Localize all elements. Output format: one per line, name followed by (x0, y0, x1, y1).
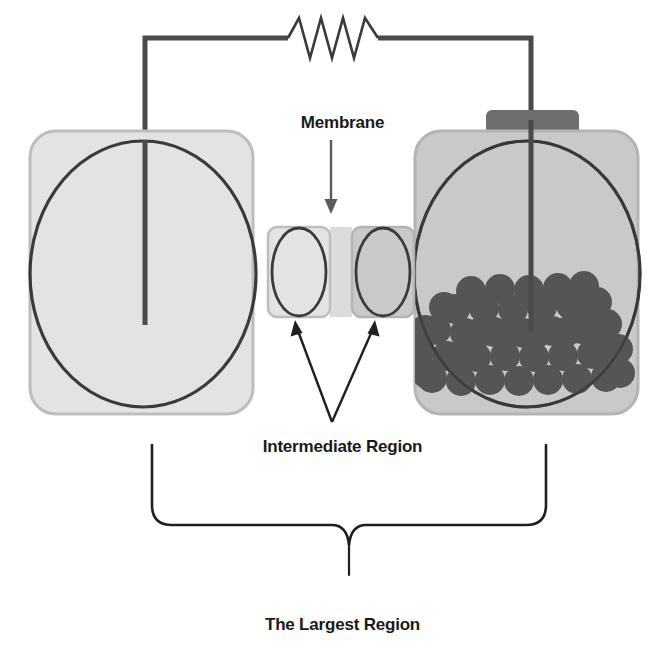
intermediate-chamber-right (352, 227, 414, 317)
particle (464, 318, 494, 348)
right-reservoir (398, 110, 640, 414)
intermediate-chamber-left (268, 227, 330, 317)
membrane-label: Membrane (0, 113, 669, 133)
particle (573, 292, 603, 322)
intermediate-region-label: Intermediate Region (0, 437, 669, 457)
membrane-pointer-arrow (325, 140, 338, 214)
intermediate-region-arrows (291, 320, 380, 422)
particle (456, 276, 486, 306)
membrane-strip (330, 227, 352, 317)
circuit-wire-right (378, 38, 531, 120)
resistor-icon (288, 18, 378, 58)
particle (605, 358, 635, 388)
intermediate-chamber-left-body (268, 227, 330, 317)
diagram-canvas: Membrane Intermediate Region The Largest… (0, 0, 669, 653)
particle (485, 274, 515, 304)
intermediate-chamber-right-body (352, 227, 414, 317)
particle (412, 359, 442, 389)
particle (551, 317, 581, 347)
largest-region-brace (152, 445, 546, 545)
particle (429, 292, 459, 322)
particle (543, 273, 573, 303)
schematic-illustration (0, 0, 669, 653)
particle (441, 343, 471, 373)
particle (493, 318, 523, 348)
particle (522, 318, 552, 348)
largest-region-label: The Largest Region (0, 615, 669, 635)
